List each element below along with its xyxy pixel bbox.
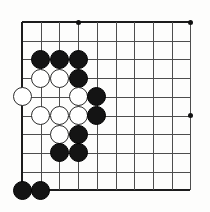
white-stone[interactable] [50,69,69,88]
black-stone[interactable] [69,69,88,88]
white-stone[interactable] [50,106,69,125]
black-stone[interactable] [69,125,88,144]
grid-line-horizontal [22,97,190,98]
black-stone[interactable] [69,143,88,162]
black-stone[interactable] [87,106,106,125]
black-stone[interactable] [13,181,32,200]
white-stone[interactable] [50,125,69,144]
grid-line-horizontal [22,21,190,23]
go-diagram [0,0,210,212]
star-point-icon [76,20,81,25]
black-stone[interactable] [50,50,69,69]
white-stone[interactable] [31,69,50,88]
star-point-icon [188,113,193,118]
white-stone[interactable] [69,87,88,106]
star-point-icon [188,20,193,25]
white-stone[interactable] [69,106,88,125]
grid-line-vertical [172,22,173,190]
black-stone[interactable] [87,87,106,106]
grid-line-horizontal [22,41,190,42]
black-stone[interactable] [31,50,50,69]
grid-line-vertical [134,22,135,190]
white-stone[interactable] [13,87,32,106]
grid-line-vertical [153,22,154,190]
black-stone[interactable] [31,181,50,200]
go-board[interactable] [0,0,210,212]
black-stone[interactable] [69,50,88,69]
grid-line-vertical [190,22,191,190]
grid-line-vertical [116,22,117,190]
grid-line-horizontal [22,172,190,173]
white-stone[interactable] [31,106,50,125]
grid-line-vertical [21,22,23,190]
grid-line-horizontal [22,134,190,135]
black-stone[interactable] [50,143,69,162]
grid-line-horizontal [22,153,190,154]
